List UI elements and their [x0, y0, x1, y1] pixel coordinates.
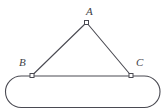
- vertex-marker-c: [129, 74, 133, 78]
- vertex-marker-a: [85, 21, 89, 25]
- geometry-figure: A B C: [0, 0, 166, 112]
- vertex-label-b: B: [19, 57, 26, 68]
- vertex-label-a: A: [86, 6, 93, 17]
- vertex-label-c: C: [136, 57, 143, 68]
- vertex-marker-b: [30, 74, 34, 78]
